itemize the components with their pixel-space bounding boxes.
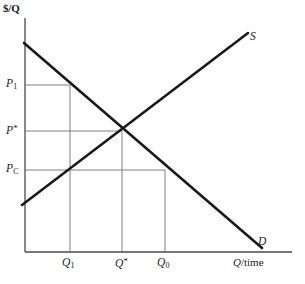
guide-lines <box>25 85 165 252</box>
price-tick-pstar: P* <box>6 124 18 136</box>
price-tick-pc-subscript: C <box>13 167 18 176</box>
quantity-tick-qstar-base: Q <box>115 257 123 269</box>
x-axis-title-symbol: Q <box>233 256 241 268</box>
x-axis-title: Q/time <box>233 257 264 268</box>
quantity-tick-qstar-asterisk: * <box>124 256 129 266</box>
curves <box>22 33 262 248</box>
quantity-tick-q1-base: Q <box>62 256 70 268</box>
axes <box>25 18 292 252</box>
price-tick-p1-base: P <box>6 77 13 89</box>
quantity-tick-q0: Q0 <box>157 257 170 270</box>
quantity-tick-q0-subscript: 0 <box>166 261 170 270</box>
price-tick-pstar-asterisk: * <box>13 123 18 133</box>
supply-curve <box>22 33 248 205</box>
x-axis-title-suffix: /time <box>241 256 264 268</box>
quantity-tick-q1-subscript: 1 <box>71 261 75 270</box>
price-tick-p1-subscript: 1 <box>13 82 17 91</box>
price-tick-pstar-base: P <box>6 124 13 136</box>
supply-demand-chart: $/Q Q/time S D P1 P* PC Q1 Q* Q0 <box>0 0 305 284</box>
price-tick-pc-base: P <box>6 162 13 174</box>
quantity-tick-q1: Q1 <box>62 257 75 270</box>
demand-curve <box>24 43 262 248</box>
quantity-tick-qstar: Q* <box>115 257 128 269</box>
price-tick-pc: PC <box>6 163 19 176</box>
price-tick-p1: P1 <box>6 78 17 91</box>
demand-curve-label: D <box>258 236 266 248</box>
supply-curve-label: S <box>250 31 256 43</box>
y-axis-title: $/Q <box>3 3 20 14</box>
quantity-tick-q0-base: Q <box>157 256 165 268</box>
